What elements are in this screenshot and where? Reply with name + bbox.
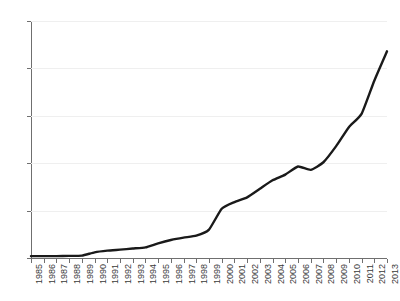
x-tickmark xyxy=(209,259,210,263)
y-tickmark xyxy=(27,21,31,22)
x-tickmark xyxy=(234,259,235,263)
x-tickmark xyxy=(298,259,299,263)
x-tick-label: 1992 xyxy=(124,264,133,284)
x-tick-label: 1994 xyxy=(149,264,158,284)
x-tickmark xyxy=(247,259,248,263)
x-tickmark xyxy=(311,259,312,263)
x-tick-label: 2013 xyxy=(391,264,400,284)
x-tick-label: 1986 xyxy=(48,264,57,284)
x-tick-label: 2001 xyxy=(238,264,247,284)
x-tickmark xyxy=(260,259,261,263)
x-tick-label: 2003 xyxy=(264,264,273,284)
x-tickmark xyxy=(69,259,70,263)
x-tick-label: 1997 xyxy=(188,264,197,284)
x-tick-label: 2009 xyxy=(340,264,349,284)
x-tick-label: 1996 xyxy=(175,264,184,284)
x-tick-label: 2011 xyxy=(366,264,375,283)
x-tick-label: 2004 xyxy=(277,264,286,284)
x-tickmark xyxy=(158,259,159,263)
x-tick-label: 1988 xyxy=(73,264,82,284)
x-tickmark xyxy=(171,259,172,263)
x-tick-label: 1998 xyxy=(200,264,209,284)
x-tickmark xyxy=(184,259,185,263)
y-tickmark xyxy=(27,68,31,69)
x-tick-label: 1985 xyxy=(35,264,44,284)
x-tick-label: 2010 xyxy=(353,264,362,284)
series-path xyxy=(31,51,387,256)
x-tickmark xyxy=(31,259,32,263)
x-tick-label: 2006 xyxy=(302,264,311,284)
x-tickmark xyxy=(56,259,57,263)
x-tick-label: 2005 xyxy=(289,264,298,284)
x-tickmark xyxy=(145,259,146,263)
x-tickmark xyxy=(285,259,286,263)
x-tick-label: 1999 xyxy=(213,264,222,284)
x-axis-labels: 1985198619871988198919901991199219931994… xyxy=(31,264,387,301)
x-tickmark xyxy=(387,259,388,263)
x-tick-label: 2000 xyxy=(226,264,235,284)
x-tickmark xyxy=(349,259,350,263)
x-tickmark xyxy=(133,259,134,263)
x-tickmark xyxy=(374,259,375,263)
x-tick-label: 1993 xyxy=(137,264,146,284)
x-tick-label: 1991 xyxy=(111,264,120,284)
y-tickmark xyxy=(27,116,31,117)
x-tick-label: 2002 xyxy=(251,264,260,284)
x-tick-label: 1990 xyxy=(99,264,108,284)
x-tick-label: 2012 xyxy=(378,264,387,284)
x-tickmark xyxy=(323,259,324,263)
x-tick-label: 2008 xyxy=(327,264,336,284)
x-tickmark xyxy=(107,259,108,263)
x-tickmark xyxy=(196,259,197,263)
x-tickmark xyxy=(95,259,96,263)
x-tickmark xyxy=(82,259,83,263)
x-tickmark xyxy=(336,259,337,263)
x-tickmark xyxy=(222,259,223,263)
x-tick-label: 1995 xyxy=(162,264,171,284)
x-tickmark xyxy=(362,259,363,263)
y-tickmark xyxy=(27,211,31,212)
x-tick-label: 1989 xyxy=(86,264,95,284)
x-tickmark xyxy=(273,259,274,263)
x-tick-label: 2007 xyxy=(315,264,324,284)
x-tickmark xyxy=(120,259,121,263)
x-tick-label: 1987 xyxy=(60,264,69,284)
y-tickmark xyxy=(27,163,31,164)
data-line-series xyxy=(31,21,387,258)
x-tickmark xyxy=(44,259,45,263)
plot-area xyxy=(31,21,387,258)
